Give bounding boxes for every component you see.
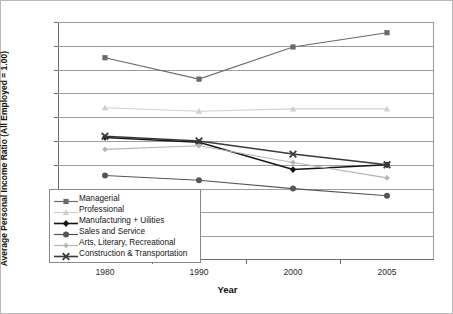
- legend-marker-cross-x-icon: [53, 248, 79, 259]
- legend-item[interactable]: Managerial: [53, 193, 196, 204]
- data-point-marker: [196, 177, 202, 183]
- series-managerial: [102, 30, 389, 82]
- data-point-marker: [102, 173, 108, 179]
- legend-label: Manufacturing + Uilities: [79, 216, 164, 226]
- x-tick-label: 2000: [263, 268, 323, 277]
- legend-label: Managerial: [79, 194, 120, 204]
- series-professional: [102, 104, 390, 113]
- legend-item[interactable]: Arts, Literary, Recreational: [53, 237, 196, 248]
- x-tick-mark: [340, 260, 341, 264]
- series-manufacturing-uilities: [102, 134, 390, 173]
- series-construction-transportation: [102, 133, 391, 168]
- data-point-marker: [384, 175, 389, 181]
- legend-item[interactable]: Manufacturing + Uilities: [53, 215, 196, 226]
- x-tick-label: 2005: [357, 268, 417, 277]
- data-point-marker: [290, 166, 296, 173]
- x-tick-label: 1990: [169, 268, 229, 277]
- data-point-marker: [384, 193, 390, 199]
- x-tick-mark: [246, 260, 247, 264]
- x-tick-label: 1980: [75, 268, 135, 277]
- series-arts-literary-recreational: [102, 143, 389, 181]
- legend-marker-circle-icon: [53, 226, 79, 237]
- legend-item[interactable]: Professional: [53, 204, 196, 215]
- legend-marker-diamond-icon: [53, 215, 79, 226]
- x-axis-title: Year: [1, 284, 453, 295]
- chart-figure: Average Personal Income Ratio (All Emplo…: [0, 0, 453, 314]
- legend-label: Professional: [79, 205, 124, 215]
- data-point-marker: [290, 186, 296, 192]
- chart-legend: ManagerialProfessionalManufacturing + Ui…: [49, 189, 201, 263]
- data-point-marker: [102, 147, 107, 153]
- legend-label: Sales and Service: [79, 227, 145, 237]
- data-point-marker: [290, 160, 295, 166]
- data-point-marker: [290, 44, 295, 49]
- y-axis-title: Average Personal Income Ratio (All Emplo…: [0, 51, 9, 266]
- data-point-marker: [196, 77, 201, 82]
- legend-label: Arts, Literary, Recreational: [79, 238, 175, 248]
- legend-marker-small-diamond-icon: [53, 237, 79, 248]
- data-point-marker: [384, 30, 389, 35]
- legend-item[interactable]: Construction & Transportation: [53, 248, 196, 259]
- legend-label: Construction & Transportation: [79, 249, 187, 259]
- legend-item[interactable]: Sales and Service: [53, 226, 196, 237]
- legend-marker-triangle-icon: [53, 204, 79, 215]
- data-point-marker: [102, 55, 107, 60]
- legend-marker-square-icon: [53, 193, 79, 204]
